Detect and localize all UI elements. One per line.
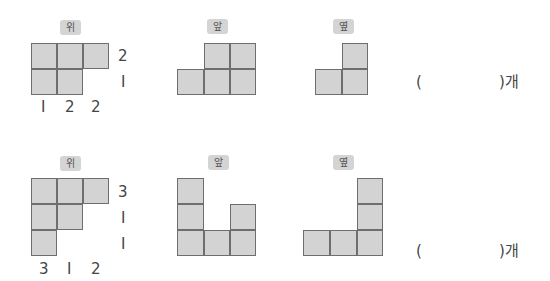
row-number: 3 [118, 184, 128, 200]
answer-blank[interactable] [428, 241, 498, 261]
grid-cell [57, 43, 83, 69]
grid-cell [177, 178, 204, 204]
grid-cell [31, 69, 57, 95]
grid-cell [204, 69, 230, 95]
row-number: 2 [118, 48, 128, 64]
side-view-label: 옆 [333, 19, 354, 34]
col-number: 2 [91, 261, 101, 277]
grid-cell [330, 230, 357, 256]
grid-cell [357, 178, 383, 204]
top-view-label: 위 [60, 20, 81, 35]
side-view-label: 옆 [333, 155, 354, 170]
grid-cell [31, 230, 57, 256]
grid-cell [204, 230, 230, 256]
grid-cell [342, 43, 368, 69]
grid-cell [83, 178, 109, 204]
grid-cell [57, 204, 83, 230]
answer-open-paren: ( [416, 74, 422, 90]
grid-cell [31, 178, 57, 204]
grid-cell [342, 69, 368, 95]
front-view-label: 앞 [207, 19, 228, 34]
col-number: 2 [91, 99, 101, 115]
grid-cell [303, 230, 330, 256]
grid-cell [230, 204, 256, 230]
row-number: I [121, 236, 125, 252]
grid-cell [31, 43, 57, 69]
top-view-label: 위 [60, 156, 81, 171]
row-number: I [121, 210, 125, 226]
grid-cell [177, 230, 204, 256]
answer-open-paren: ( [416, 243, 422, 259]
grid-cell [204, 43, 230, 69]
grid-cell [230, 230, 256, 256]
col-number: 2 [65, 99, 75, 115]
answer-unit: )개 [499, 74, 519, 90]
answer-blank[interactable] [428, 72, 498, 92]
answer-unit: )개 [499, 243, 519, 259]
grid-cell [57, 69, 83, 95]
grid-cell [230, 43, 256, 69]
col-number: 3 [39, 261, 49, 277]
grid-cell [177, 69, 204, 95]
grid-cell [177, 204, 204, 230]
grid-cell [357, 230, 383, 256]
grid-cell [315, 69, 342, 95]
grid-cell [357, 204, 383, 230]
grid-cell [31, 204, 57, 230]
row-number: I [121, 74, 125, 90]
front-view-label: 앞 [208, 155, 229, 170]
grid-cell [57, 178, 83, 204]
grid-cell [230, 69, 256, 95]
grid-cell [83, 43, 109, 69]
col-number: I [67, 261, 71, 277]
col-number: I [41, 99, 45, 115]
